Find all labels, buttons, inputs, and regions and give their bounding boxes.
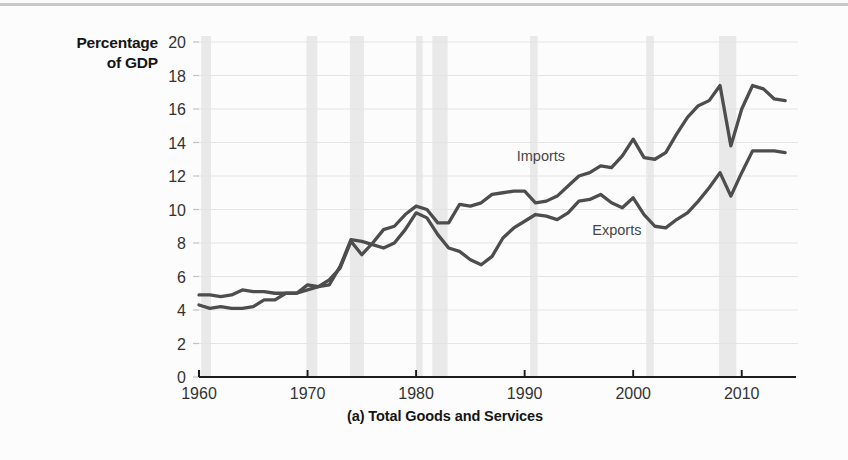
- x-tick-label: 2010: [724, 385, 760, 402]
- x-tick-label: 1980: [398, 385, 434, 402]
- data-series-group: [199, 86, 785, 309]
- figure-caption: (a) Total Goods and Services: [0, 408, 848, 424]
- y-tick-label: 16: [168, 101, 186, 118]
- x-tick-label: 1990: [507, 385, 543, 402]
- chart-figure: Percentage of GDP 02468101214161820 1960…: [0, 0, 848, 460]
- recession-band: [530, 36, 538, 377]
- x-tick-label: 1970: [290, 385, 326, 402]
- x-axis-group: [199, 370, 796, 377]
- series-line-exports: [199, 151, 785, 297]
- recession-band: [432, 36, 447, 377]
- y-tick-label: 10: [168, 202, 186, 219]
- series-annotation-exports: Exports: [592, 222, 641, 238]
- series-annotation-imports: Imports: [517, 148, 565, 164]
- recession-band: [306, 36, 317, 377]
- x-tick-label: 1960: [181, 385, 217, 402]
- recession-band: [201, 36, 211, 377]
- y-tick-label: 8: [177, 235, 186, 252]
- y-tick-label: 14: [168, 135, 186, 152]
- series-line-imports: [199, 86, 785, 309]
- figure-caption-text: (a) Total Goods and Services: [305, 408, 543, 424]
- x-tick-label: 2000: [615, 385, 651, 402]
- y-tick-label: 6: [177, 269, 186, 286]
- x-tick-labels-group: 196019701980199020002010: [181, 385, 759, 402]
- y-tick-label: 12: [168, 168, 186, 185]
- y-tick-label: 20: [168, 34, 186, 51]
- recession-band: [646, 36, 654, 377]
- y-tick-label: 2: [177, 336, 186, 353]
- recession-band: [350, 36, 364, 377]
- y-tick-label: 0: [177, 369, 186, 386]
- y-tick-label: 18: [168, 68, 186, 85]
- line-chart-plot: 02468101214161820 1960197019801990200020…: [0, 0, 848, 460]
- y-tick-labels-group: 02468101214161820: [168, 34, 199, 386]
- y-tick-label: 4: [177, 302, 186, 319]
